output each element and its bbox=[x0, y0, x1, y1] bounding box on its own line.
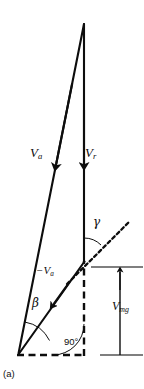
label-angle-gamma: γ bbox=[93, 216, 100, 228]
vector-va bbox=[19, 24, 84, 353]
figure-caption: (a) bbox=[3, 369, 15, 379]
angle-arc-beta bbox=[25, 322, 50, 341]
vector-diagram-figure: Va Vr −Va Vmg γ β 90° (a) bbox=[0, 0, 144, 389]
label-angle-ninety: 90° bbox=[64, 337, 78, 347]
label-v-meridional: Vmg bbox=[112, 300, 129, 314]
label-v-relative: Vr bbox=[85, 146, 96, 160]
vector-diagram-canvas bbox=[0, 0, 144, 389]
vector-negative-va-arrowhead bbox=[54, 284, 68, 304]
vector-va-arrowhead bbox=[56, 84, 72, 165]
label-negative-v-absolute: −Va bbox=[36, 265, 54, 278]
label-angle-beta: β bbox=[32, 297, 39, 309]
vector-va-shaft bbox=[19, 24, 84, 353]
angle-arc-gamma bbox=[84, 238, 101, 245]
label-v-absolute: Va bbox=[30, 146, 42, 160]
